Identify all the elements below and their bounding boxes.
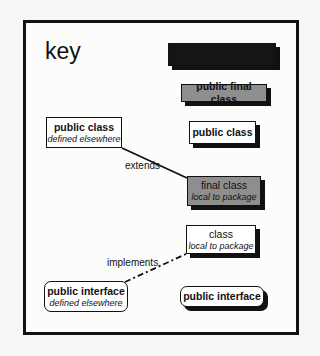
final-class-box: final class local to package: [187, 176, 261, 206]
public-class-elsewhere-box: public class defined elsewhere: [46, 117, 122, 148]
public-interface-label: public interface: [183, 290, 261, 303]
class-local-box: class local to package: [186, 225, 256, 254]
public-class-elsewhere-sub: defined elsewhere: [47, 134, 120, 145]
implements-label: implements.: [107, 257, 161, 269]
abstract-class-box: [168, 43, 276, 66]
extends-label: extends: [125, 160, 160, 172]
class-local-sub: local to package: [188, 241, 253, 252]
public-interface-box: public interface: [180, 286, 264, 307]
public-class-box: public class: [189, 121, 256, 144]
public-final-class-label: public final class: [182, 80, 266, 106]
public-class-label: public class: [192, 126, 252, 139]
public-interface-elsewhere-box: public interface defined elsewhere: [44, 281, 128, 312]
public-class-elsewhere-label: public class: [54, 121, 114, 134]
public-interface-elsewhere-label: public interface: [47, 285, 125, 298]
public-interface-elsewhere-sub: defined elsewhere: [49, 298, 122, 309]
class-local-label: class: [209, 228, 233, 241]
public-final-class-box: public final class: [181, 84, 267, 102]
final-class-label: final class: [201, 179, 247, 192]
final-class-sub: local to package: [191, 192, 256, 203]
